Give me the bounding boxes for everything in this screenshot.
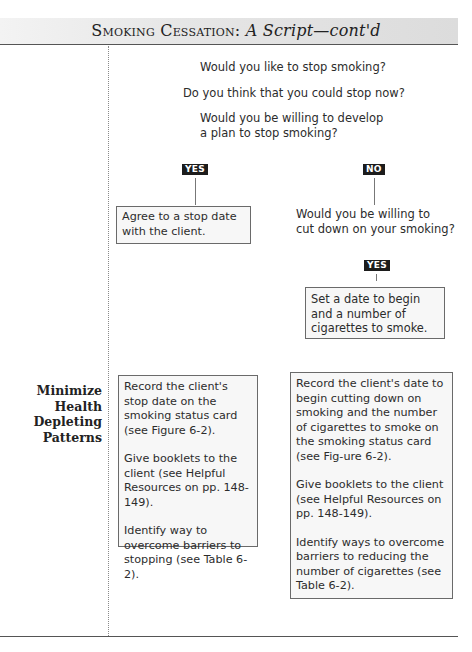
cut-down-connector-line [376, 274, 377, 281]
no-badge: NO [363, 164, 385, 175]
stop-action-booklets: Give booklets to the client (see Helpful… [124, 452, 252, 510]
cut-down-action-text: Set a date to begin and a number of ciga… [311, 292, 439, 336]
stop-action-barriers: Identify way to overcome barriers to sto… [124, 524, 252, 582]
cut-down-plan-actions-box: Record the client's date to begin cuttin… [290, 372, 453, 599]
question-develop-plan-line1: Would you be willing to develop [200, 111, 383, 126]
page-title: Smoking Cessation: A Script—cont'd [0, 18, 472, 44]
section-label-line: Patterns [10, 430, 102, 446]
section-label-line: Health [10, 399, 102, 415]
yes-badge: YES [182, 164, 208, 175]
cut-down-action-booklets: Give booklets to the client (see Helpful… [296, 478, 447, 522]
yes-action-text: Agree to a stop date with the client. [122, 210, 245, 239]
question-stop-smoking: Would you like to stop smoking? [200, 60, 386, 75]
yes-action-box: Agree to a stop date with the client. [116, 206, 251, 244]
column-divider [108, 46, 109, 636]
stop-action-record: Record the client's stop date on the smo… [124, 380, 252, 438]
no-connector-line [374, 178, 375, 205]
question-cut-down-line1: Would you be willing to [296, 207, 430, 222]
yes-connector-line [195, 178, 196, 205]
cut-down-action-barriers: Identify ways to overcome barriers to re… [296, 536, 447, 594]
section-label-minimize-health-depleting-patterns: Minimize Health Depleting Patterns [10, 383, 102, 445]
section-label-line: Depleting [10, 414, 102, 430]
page-title-subtitle: A Script—cont'd [246, 21, 381, 40]
question-cut-down-line2: cut down on your smoking? [296, 222, 455, 237]
cut-down-yes-badge: YES [364, 260, 390, 271]
section-label-line: Minimize [10, 383, 102, 399]
cut-down-action-box: Set a date to begin and a number of ciga… [305, 287, 445, 339]
page-title-main: Smoking Cessation: [91, 21, 240, 40]
bottom-rule [0, 636, 458, 637]
stop-plan-actions-box: Record the client's stop date on the smo… [118, 375, 258, 547]
cut-down-action-record: Record the client's date to begin cuttin… [296, 377, 447, 464]
question-stop-now: Do you think that you could stop now? [183, 86, 405, 101]
question-develop-plan-line2: a plan to stop smoking? [200, 126, 338, 141]
